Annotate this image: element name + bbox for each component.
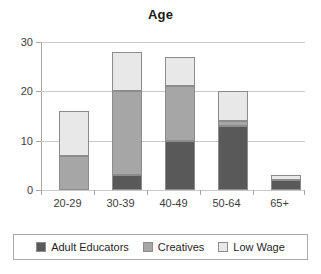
bar-segment-low-wage[interactable] — [218, 91, 248, 121]
legend-label: Low Wage — [233, 241, 285, 253]
x-axis-tick-0 — [41, 190, 42, 195]
legend-items: Adult Educators Creatives Low Wage — [14, 235, 307, 259]
x-axis-tick-3 — [200, 190, 201, 195]
gridline-30 — [41, 42, 305, 43]
chart-legend: Adult Educators Creatives Low Wage — [13, 234, 308, 260]
x-axis-tick-4 — [253, 190, 254, 195]
legend-swatch-icon — [143, 242, 153, 252]
y-axis-label-10: 10 — [3, 136, 33, 147]
y-axis-labels: 30 20 10 0 — [0, 0, 33, 274]
bar-stack-30-39[interactable] — [112, 52, 142, 190]
bar-segment-low-wage[interactable] — [165, 57, 195, 87]
legend-item-creatives[interactable]: Creatives — [143, 241, 204, 253]
y-axis-label-0: 0 — [3, 185, 33, 196]
bar-segment-low-wage[interactable] — [112, 52, 142, 91]
x-axis-ticks — [41, 190, 305, 196]
x-axis-label-30-39: 30-39 — [94, 197, 147, 210]
bar-segment-creatives[interactable] — [165, 86, 195, 140]
legend-swatch-icon — [218, 242, 228, 252]
x-axis-label-40-49: 40-49 — [147, 197, 200, 210]
chart-title: Age — [0, 7, 321, 22]
bar-segment-creatives[interactable] — [112, 91, 142, 175]
plot-area — [41, 42, 305, 190]
bar-segment-adult-educators[interactable] — [165, 141, 195, 190]
x-axis-tick-2 — [147, 190, 148, 195]
bar-segment-adult-educators[interactable] — [271, 180, 301, 190]
bar-segment-low-wage[interactable] — [59, 111, 89, 156]
legend-item-low-wage[interactable]: Low Wage — [218, 241, 285, 253]
bar-stack-20-29[interactable] — [59, 111, 89, 190]
bar-stack-40-49[interactable] — [165, 57, 195, 190]
bar-segment-adult-educators[interactable] — [112, 175, 142, 190]
x-axis-tick-1 — [94, 190, 95, 195]
bar-segment-adult-educators[interactable] — [218, 126, 248, 190]
bar-stack-50-64[interactable] — [218, 91, 248, 190]
y-axis-label-20: 20 — [3, 86, 33, 97]
legend-swatch-icon — [36, 242, 46, 252]
legend-label: Adult Educators — [51, 241, 129, 253]
y-axis-label-30: 30 — [3, 37, 33, 48]
x-axis-labels: 20-29 30-39 40-49 50-64 65+ — [41, 197, 305, 213]
x-axis-label-20-29: 20-29 — [41, 197, 94, 210]
legend-label: Creatives — [158, 241, 204, 253]
x-axis-label-65-plus: 65+ — [253, 197, 306, 210]
x-axis-tick-5 — [304, 190, 305, 195]
legend-item-adult-educators[interactable]: Adult Educators — [36, 241, 129, 253]
bar-segment-creatives[interactable] — [59, 156, 89, 191]
x-axis-label-50-64: 50-64 — [200, 197, 253, 210]
bar-stack-65-plus[interactable] — [271, 175, 301, 190]
chart-container: Age 30 20 10 0 — [0, 0, 321, 274]
